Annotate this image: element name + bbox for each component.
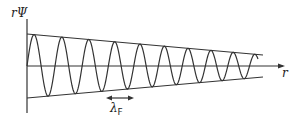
wavelength-arrowhead-right [128,96,134,101]
x-axis-label: r [282,66,288,80]
wavelength-arrowhead-left [106,96,112,101]
wavelength-label: λF [110,101,123,117]
diagram-canvas [0,0,301,123]
fermi-subscript: F [118,107,123,117]
lower-envelope [27,77,263,98]
lambda-symbol: λ [110,101,118,115]
y-axis-label: rΨ [11,6,27,20]
